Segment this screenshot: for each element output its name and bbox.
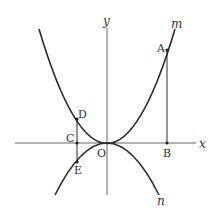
x-axis-label: x: [199, 137, 206, 151]
point-e-label: E: [74, 164, 82, 177]
curve-n-label: n: [157, 194, 165, 208]
y-axis-label: y: [102, 14, 110, 28]
point-c: [75, 141, 78, 144]
point-b: [165, 141, 168, 144]
point-c-label: C: [66, 132, 74, 145]
curve-m-label: m: [171, 17, 182, 31]
point-a-label: A: [156, 42, 166, 55]
point-b-label: B: [163, 147, 171, 160]
point-a: [165, 48, 168, 51]
origin-label: O: [97, 147, 106, 160]
coordinate-diagram: x y O m n A B C D E: [0, 0, 219, 218]
point-d-label: D: [78, 108, 87, 121]
